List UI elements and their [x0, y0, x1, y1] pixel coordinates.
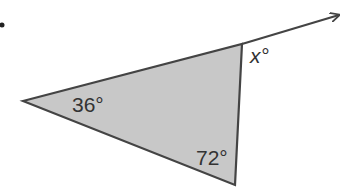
triangle-diagram: 36° 72° x° — [0, 0, 341, 196]
bullet-marker — [0, 23, 5, 28]
angle-label-x: x° — [249, 44, 269, 67]
extended-ray-arrow — [242, 15, 339, 44]
angle-label-36: 36° — [72, 93, 104, 116]
angle-label-72: 72° — [196, 146, 228, 169]
